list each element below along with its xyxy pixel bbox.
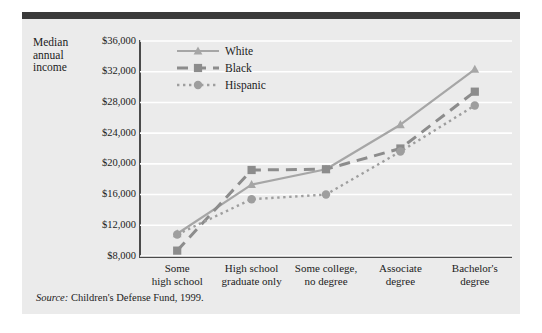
legend-item-hispanic[interactable]: Hispanic — [176, 76, 306, 93]
legend-swatch-hispanic — [176, 78, 220, 92]
source-note: Source: Children's Defense Fund, 1999. — [36, 292, 204, 303]
x-axis-tick-labels: Somehigh schoolHigh schoolgraduate onlyS… — [140, 262, 512, 296]
series-line-white — [177, 69, 475, 233]
series-marker-hispanic-2 — [322, 190, 330, 198]
series-marker-hispanic-0 — [173, 230, 181, 238]
y-tick-label-7: $36,000 — [72, 35, 136, 46]
chart-figure: Median annual income $8,000$12,000$16,00… — [0, 0, 542, 333]
legend-item-black[interactable]: Black — [176, 59, 306, 76]
y-tick-label-0: $8,000 — [72, 250, 136, 261]
y-tick-label-4: $24,000 — [72, 127, 136, 138]
y-tick-label-3: $20,000 — [72, 157, 136, 168]
x-tick-label-0-line-1: Some — [152, 262, 203, 275]
legend-label-black: Black — [225, 62, 252, 74]
series-marker-hispanic-3 — [396, 147, 404, 155]
legend-marker-circle-icon — [194, 80, 202, 88]
legend-item-white[interactable]: White — [176, 42, 306, 59]
y-tick-label-2: $16,000 — [72, 188, 136, 199]
x-tick-label-4: Bachelor'sdegree — [452, 262, 498, 288]
legend-line-black-icon — [176, 61, 220, 75]
legend-swatch-white — [176, 44, 220, 58]
y-tick-label-1: $12,000 — [72, 219, 136, 230]
legend-label-hispanic: Hispanic — [225, 79, 266, 91]
x-tick-label-4-line-2: degree — [452, 275, 498, 288]
series-marker-white-4 — [470, 65, 479, 73]
legend-line-white-icon — [176, 44, 220, 58]
x-tick-label-4-line-1: Bachelor's — [452, 262, 498, 275]
legend-marker-square-icon — [194, 63, 202, 71]
legend-line-hispanic-icon — [176, 78, 220, 92]
chart-legend: WhiteBlackHispanic — [176, 42, 306, 93]
source-prefix: Source: — [36, 292, 68, 303]
source-text: Children's Defense Fund, 1999. — [71, 292, 204, 303]
x-tick-label-2-line-1: Some college, — [295, 262, 357, 275]
series-marker-black-0 — [173, 247, 181, 255]
series-marker-black-2 — [322, 165, 330, 173]
y-axis-tick-labels: $8,000$12,000$16,000$20,000$24,000$28,00… — [68, 0, 136, 333]
y-tick-label-6: $32,000 — [72, 65, 136, 76]
series-marker-black-4 — [471, 88, 479, 96]
x-tick-label-0: Somehigh school — [152, 262, 203, 288]
y-tick-label-5: $28,000 — [72, 96, 136, 107]
x-tick-label-0-line-2: high school — [152, 275, 203, 288]
x-tick-label-2: Some college,no degree — [295, 262, 357, 288]
x-tick-label-1-line-1: High school — [222, 262, 282, 275]
x-tick-label-3-line-2: degree — [379, 275, 422, 288]
x-tick-label-2-line-2: no degree — [295, 275, 357, 288]
series-marker-hispanic-4 — [471, 101, 479, 109]
series-marker-black-1 — [248, 166, 256, 174]
x-tick-label-1: High schoolgraduate only — [222, 262, 282, 288]
x-tick-label-1-line-2: graduate only — [222, 275, 282, 288]
series-marker-hispanic-1 — [247, 195, 255, 203]
x-tick-label-3-line-1: Associate — [379, 262, 422, 275]
legend-swatch-black — [176, 61, 220, 75]
legend-label-white: White — [225, 45, 253, 57]
x-tick-label-3: Associatedegree — [379, 262, 422, 288]
